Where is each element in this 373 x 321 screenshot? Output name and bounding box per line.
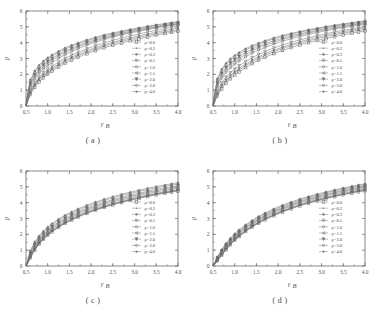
panel-caption-c: ( c ): [0, 296, 186, 305]
svg-text:B: B: [293, 122, 297, 129]
svg-text:ρ=1.5: ρ=1.5: [332, 231, 343, 236]
svg-text:ρ=1.5: ρ=1.5: [332, 71, 343, 76]
svg-text:3.0: 3.0: [318, 269, 325, 275]
svg-text:2.0: 2.0: [275, 269, 282, 275]
svg-text:2.5: 2.5: [109, 109, 116, 115]
svg-text:ρ=0.2: ρ=0.2: [332, 206, 343, 211]
svg-text:0.5: 0.5: [23, 269, 30, 275]
svg-text:0.5: 0.5: [23, 109, 30, 115]
svg-text:4.0: 4.0: [175, 109, 182, 115]
svg-text:ρ=2.0: ρ=2.0: [332, 237, 343, 242]
svg-text:2.0: 2.0: [88, 109, 95, 115]
plot-area-a: 0.51.01.52.02.53.03.54.00123456βγBρ=0.0ρ…: [0, 2, 186, 130]
svg-text:0.5: 0.5: [210, 269, 217, 275]
svg-text:ρ=4.0: ρ=4.0: [332, 249, 343, 254]
svg-text:ρ=3.0: ρ=3.0: [145, 83, 156, 88]
svg-text:3.5: 3.5: [340, 109, 347, 115]
svg-text:1.0: 1.0: [44, 109, 51, 115]
svg-text:1.0: 1.0: [231, 109, 238, 115]
svg-text:ρ=4.0: ρ=4.0: [145, 249, 156, 254]
svg-text:ρ=0.5: ρ=0.5: [332, 58, 343, 63]
chart-svg-d: 0.51.01.52.02.53.03.54.00123456βγBρ=0.0ρ…: [187, 162, 373, 290]
svg-text:3: 3: [20, 216, 23, 222]
svg-text:γ: γ: [288, 280, 291, 287]
figure-container: 0.51.01.52.02.53.03.54.00123456βγBρ=0.0ρ…: [0, 0, 373, 321]
svg-text:4: 4: [20, 40, 23, 46]
chart-svg-a: 0.51.01.52.02.53.03.54.00123456βγBρ=0.0ρ…: [0, 2, 186, 130]
svg-text:γ: γ: [288, 120, 291, 127]
svg-text:ρ=1.0: ρ=1.0: [332, 225, 343, 230]
svg-text:γ: γ: [101, 120, 104, 127]
svg-text:β: β: [190, 56, 197, 61]
panel-b: 0.51.01.52.02.53.03.54.00123456βγBρ=0.0ρ…: [187, 0, 373, 160]
svg-text:2.5: 2.5: [296, 269, 303, 275]
svg-text:1: 1: [20, 247, 23, 253]
svg-text:6: 6: [20, 8, 23, 14]
svg-text:ρ=0.0: ρ=0.0: [145, 200, 156, 205]
svg-text:β: β: [190, 216, 197, 221]
svg-text:5: 5: [20, 184, 23, 190]
panel-d: 0.51.01.52.02.53.03.54.00123456βγBρ=0.0ρ…: [187, 160, 373, 320]
svg-text:2: 2: [20, 71, 23, 77]
svg-text:ρ=0.3: ρ=0.3: [145, 52, 156, 57]
svg-text:ρ=1.0: ρ=1.0: [145, 65, 156, 70]
svg-text:1: 1: [20, 87, 23, 93]
svg-text:ρ=0.0: ρ=0.0: [332, 40, 343, 45]
svg-text:2: 2: [207, 71, 210, 77]
svg-text:ρ=0.5: ρ=0.5: [145, 58, 156, 63]
svg-text:4: 4: [20, 200, 23, 206]
svg-text:ρ=4.0: ρ=4.0: [145, 89, 156, 94]
panel-c: 0.51.01.52.02.53.03.54.00123456βγBρ=0.0ρ…: [0, 160, 186, 320]
svg-text:ρ=0.3: ρ=0.3: [332, 212, 343, 217]
svg-text:1.5: 1.5: [66, 109, 73, 115]
svg-text:ρ=2.0: ρ=2.0: [332, 77, 343, 82]
svg-text:3.5: 3.5: [340, 269, 347, 275]
svg-text:6: 6: [207, 168, 210, 174]
svg-text:4.0: 4.0: [362, 109, 369, 115]
svg-text:1.0: 1.0: [44, 269, 51, 275]
panel-caption-d: ( d ): [187, 296, 373, 305]
plot-area-b: 0.51.01.52.02.53.03.54.00123456βγBρ=0.0ρ…: [187, 2, 373, 130]
svg-text:β: β: [3, 216, 10, 221]
svg-text:ρ=3.0: ρ=3.0: [332, 83, 343, 88]
svg-text:B: B: [293, 282, 297, 289]
svg-text:ρ=0.3: ρ=0.3: [332, 52, 343, 57]
svg-text:4.0: 4.0: [362, 269, 369, 275]
svg-text:0: 0: [20, 263, 23, 269]
svg-text:ρ=1.5: ρ=1.5: [145, 231, 156, 236]
svg-text:ρ=3.0: ρ=3.0: [332, 243, 343, 248]
svg-text:2.5: 2.5: [296, 109, 303, 115]
svg-text:6: 6: [20, 168, 23, 174]
svg-text:4.0: 4.0: [175, 269, 182, 275]
svg-text:2.0: 2.0: [275, 109, 282, 115]
plot-area-d: 0.51.01.52.02.53.03.54.00123456βγBρ=0.0ρ…: [187, 162, 373, 290]
svg-text:ρ=0.5: ρ=0.5: [332, 218, 343, 223]
svg-text:2.0: 2.0: [88, 269, 95, 275]
svg-text:0: 0: [207, 103, 210, 109]
svg-text:1.5: 1.5: [253, 109, 260, 115]
svg-text:3: 3: [207, 56, 210, 62]
svg-text:5: 5: [207, 24, 210, 30]
svg-text:ρ=0.0: ρ=0.0: [145, 40, 156, 45]
svg-text:1: 1: [207, 87, 210, 93]
svg-text:0: 0: [207, 263, 210, 269]
plot-area-c: 0.51.01.52.02.53.03.54.00123456βγBρ=0.0ρ…: [0, 162, 186, 290]
svg-text:ρ=1.0: ρ=1.0: [145, 225, 156, 230]
svg-text:ρ=3.0: ρ=3.0: [145, 243, 156, 248]
panel-caption-a: ( a ): [0, 136, 186, 145]
svg-text:2: 2: [207, 231, 210, 237]
svg-text:1.0: 1.0: [231, 269, 238, 275]
svg-text:4: 4: [207, 40, 210, 46]
svg-text:ρ=4.0: ρ=4.0: [332, 89, 343, 94]
svg-text:3: 3: [207, 216, 210, 222]
svg-text:6: 6: [207, 8, 210, 14]
svg-text:1.5: 1.5: [253, 269, 260, 275]
svg-text:ρ=0.2: ρ=0.2: [332, 46, 343, 51]
chart-svg-c: 0.51.01.52.02.53.03.54.00123456βγBρ=0.0ρ…: [0, 162, 186, 290]
svg-text:1: 1: [207, 247, 210, 253]
svg-text:ρ=0.3: ρ=0.3: [145, 212, 156, 217]
svg-text:ρ=1.0: ρ=1.0: [332, 65, 343, 70]
svg-text:B: B: [106, 282, 110, 289]
svg-text:2: 2: [20, 231, 23, 237]
svg-text:ρ=0.5: ρ=0.5: [145, 218, 156, 223]
